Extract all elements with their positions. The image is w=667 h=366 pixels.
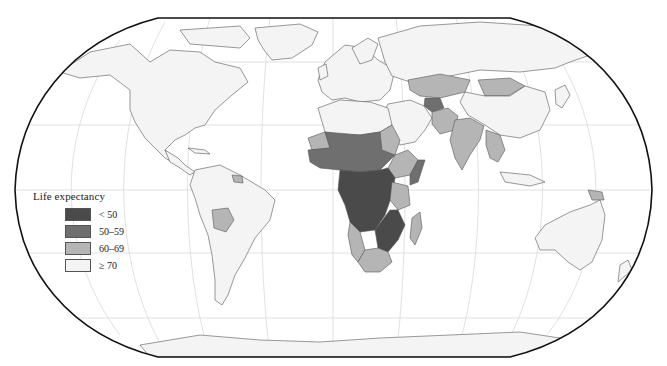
legend-label: ≥ 70 [99,260,117,271]
legend-title: Life expectancy [33,190,143,202]
legend: Life expectancy < 50 50–59 60–69 ≥ 70 [33,190,143,274]
legend-swatch-60-69 [65,242,91,255]
legend-item: < 50 [65,206,143,223]
legend-item: 50–59 [65,223,143,240]
legend-item: 60–69 [65,240,143,257]
legend-swatch-under-50 [65,208,91,221]
legend-label: < 50 [99,209,117,220]
legend-label: 50–59 [99,226,124,237]
legend-item: ≥ 70 [65,257,143,274]
legend-label: 60–69 [99,243,124,254]
legend-swatch-50-59 [65,225,91,238]
world-map [0,0,667,366]
legend-swatch-70-plus [65,259,91,272]
guianas [232,175,243,183]
